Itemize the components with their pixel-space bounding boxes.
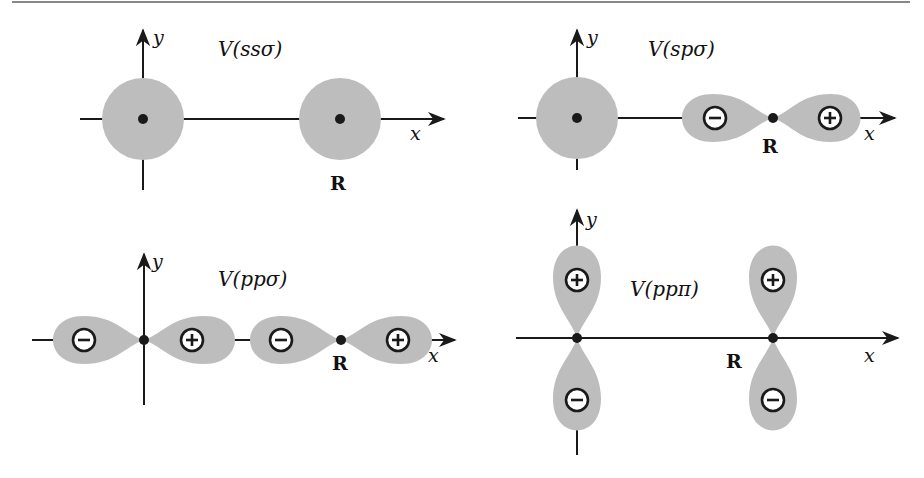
R-label: R [330,172,346,194]
panel-title: V(ssσ) [218,37,282,61]
minus-sign-icon [566,389,588,411]
panel-title: V(ppσ) [218,267,287,291]
orbital-overlap-figure: y x V(ssσ) R y x V(spσ) R [0,0,924,478]
panel-title: V(spσ) [648,37,715,61]
x-axis-label: x [428,344,439,366]
x-axis-label: x [864,122,875,144]
R-label: R [762,135,778,157]
y-axis-label: y [585,208,597,230]
minus-sign-icon [762,389,784,411]
plus-sign-icon [387,329,409,351]
x-axis-label: x [410,122,421,144]
y-axis-label: y [151,250,163,272]
plus-sign-icon [566,269,588,291]
R-label: R [332,352,348,374]
atom-R [335,114,345,124]
minus-sign-icon [73,329,95,351]
panel-pp-pi: y x V(ppπ) R [516,208,898,455]
panel-pp-sigma: y x V(ppσ) R [32,250,455,405]
panel-ss-sigma: y x V(ssσ) R [80,26,444,194]
y-axis-label: y [152,26,164,48]
plus-sign-icon [819,107,841,129]
R-label: R [726,350,742,372]
panel-title: V(ppπ) [630,277,699,301]
minus-sign-icon [270,329,292,351]
panel-sp-sigma: y x V(spσ) R [518,26,895,170]
atom-origin [138,114,148,124]
x-axis-label: x [864,344,875,366]
atom-origin [572,113,582,123]
minus-sign-icon [704,107,726,129]
plus-sign-icon [181,329,203,351]
plus-sign-icon [762,269,784,291]
y-axis-label: y [586,26,598,48]
